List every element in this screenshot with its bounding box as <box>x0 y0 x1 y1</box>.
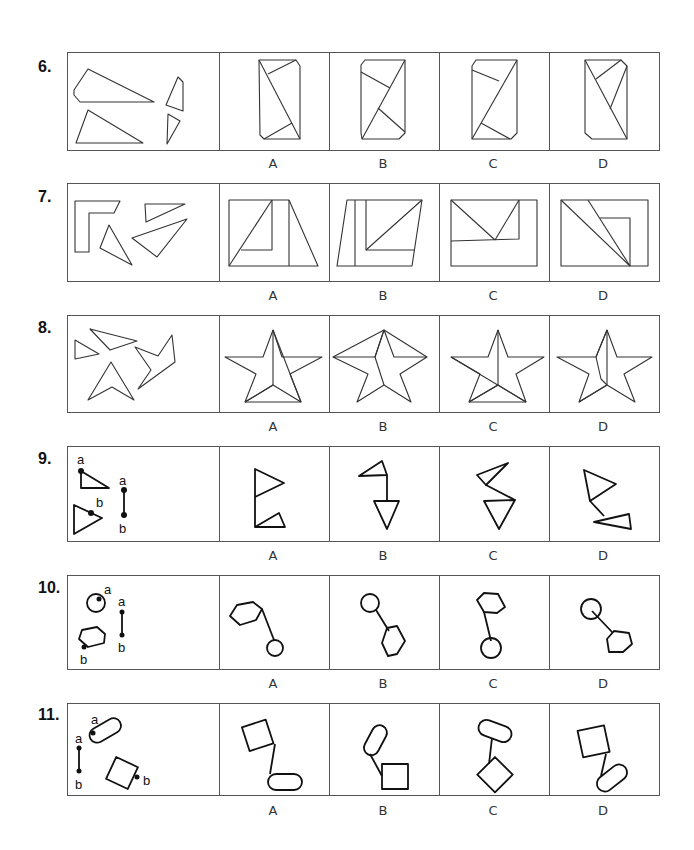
connector-dot-b <box>121 512 127 518</box>
stimulus-square <box>106 757 138 789</box>
option-d-figure <box>557 330 652 402</box>
piece-triangle-2 <box>75 340 99 359</box>
question-7-frame <box>67 183 660 282</box>
point-b-dot <box>135 775 140 780</box>
connector-dot-a <box>120 610 125 615</box>
option-label-c: C <box>438 419 548 434</box>
option-label-a: A <box>218 803 328 818</box>
question-number: 9. <box>38 450 51 468</box>
option-label-b: B <box>328 156 438 171</box>
option-c-figure <box>477 463 515 529</box>
piece-triangle-2 <box>132 219 187 257</box>
option-c-figure <box>472 60 517 139</box>
option-c-figure <box>451 330 544 402</box>
piece-quadrilateral <box>74 69 154 102</box>
point-a-dot <box>97 597 102 602</box>
connector-label-b: b <box>75 777 82 792</box>
option-label-a: A <box>218 419 328 434</box>
piece-l-shape <box>75 201 120 252</box>
point-label-a: a <box>104 582 112 597</box>
option-label-d: D <box>548 803 658 818</box>
piece-small-quad <box>166 77 183 111</box>
option-a-figure <box>225 330 322 402</box>
option-label-b: B <box>328 548 438 563</box>
option-a-figure <box>259 60 300 139</box>
question-number: 6. <box>38 58 51 76</box>
question-number: 7. <box>38 188 51 206</box>
option-label-a: A <box>218 156 328 171</box>
option-d-figure <box>578 725 631 794</box>
question-11-frame: a b a b <box>67 703 660 796</box>
connector-label-b: b <box>118 640 125 655</box>
option-label-b: B <box>328 288 438 303</box>
option-label-a: A <box>218 676 328 691</box>
question-number: 8. <box>38 319 51 337</box>
question-11-figures: a b a b <box>68 704 661 797</box>
option-b-figure <box>361 60 405 139</box>
piece-bent <box>135 335 175 389</box>
option-label-b: B <box>328 803 438 818</box>
stimulus-circle <box>87 594 105 612</box>
option-d-figure <box>585 60 627 139</box>
question-number: 10. <box>38 579 60 597</box>
option-label-b: B <box>328 419 438 434</box>
connector-dot-a <box>121 487 127 493</box>
piece-triangle <box>76 110 143 143</box>
question-6-figures <box>68 53 661 152</box>
option-c-figure <box>451 200 537 266</box>
stimulus-triangle-1 <box>81 471 109 488</box>
option-d-figure <box>581 599 632 652</box>
option-a-figure <box>230 602 283 656</box>
option-a-figure <box>229 200 318 266</box>
option-label-d: D <box>548 419 658 434</box>
question-8-frame <box>67 315 660 413</box>
piece-triangle-3 <box>100 225 132 265</box>
connector-label-b: b <box>119 521 126 536</box>
piece-small-triangle <box>167 114 180 144</box>
question-10-frame: a b a b <box>67 575 660 670</box>
option-label-c: C <box>438 288 548 303</box>
point-label-b: b <box>96 495 103 510</box>
option-label-c: C <box>438 803 548 818</box>
stimulus-hexagon <box>79 627 105 647</box>
connector-label-a: a <box>119 473 127 488</box>
question-7-figures <box>68 184 661 283</box>
point-label-b: b <box>143 773 150 788</box>
piece-triangle-1 <box>145 204 185 222</box>
question-8-figures <box>68 316 661 414</box>
option-label-c: C <box>438 156 548 171</box>
question-6-frame <box>67 52 660 151</box>
option-d-figure <box>561 200 648 266</box>
option-label-d: D <box>548 676 658 691</box>
point-label-b: b <box>80 652 87 667</box>
option-b-figure <box>333 330 427 402</box>
option-b-figure <box>361 594 405 656</box>
option-d-figure <box>584 470 631 529</box>
question-9-figures: a b a b <box>68 447 661 543</box>
piece-arrow <box>88 362 134 400</box>
option-b-figure <box>361 723 408 789</box>
option-a-figure <box>242 720 302 790</box>
point-a-dot <box>91 731 96 736</box>
question-number: 11. <box>38 706 59 724</box>
piece-triangle-1 <box>90 329 137 350</box>
connector-label-a: a <box>75 731 83 746</box>
option-label-c: C <box>438 676 548 691</box>
option-label-d: D <box>548 548 658 563</box>
connector-label-a: a <box>118 594 126 609</box>
option-label-a: A <box>218 288 328 303</box>
connector-dot-b <box>77 769 82 774</box>
question-9-frame: a b a b <box>67 446 660 542</box>
point-label-a: a <box>91 712 99 727</box>
point-b-dot <box>88 510 94 516</box>
point-a-dot <box>78 468 84 474</box>
question-10-figures: a b a b <box>68 576 661 671</box>
option-b-figure <box>337 200 422 266</box>
option-c-figure <box>476 718 513 793</box>
option-label-d: D <box>548 156 658 171</box>
option-c-figure <box>477 593 505 658</box>
point-label-a: a <box>77 452 85 467</box>
connector-dot-b <box>120 633 125 638</box>
option-label-a: A <box>218 548 328 563</box>
point-b-dot <box>82 645 87 650</box>
